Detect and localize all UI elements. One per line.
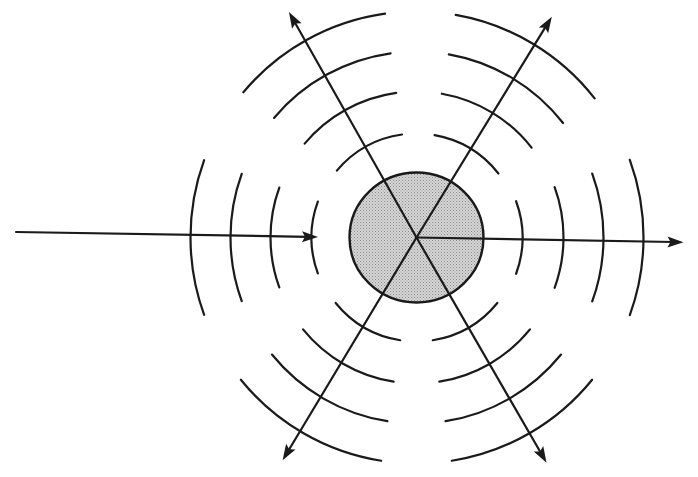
scattered-wavefront-arc [555,187,564,288]
scattered-wavefront-arc [274,53,391,118]
ray-line [417,238,542,455]
ray-line [417,25,547,237]
scattered-wavefront-group [241,303,400,461]
scattered-ray-arrow [289,12,417,237]
incident-ray-line [16,232,308,237]
incident-wavefront-arc [231,174,242,301]
arrowhead-icon [534,446,547,463]
arrowhead-icon [539,17,552,34]
scattered-wavefront-group [435,15,595,174]
scattering-diagram [0,0,698,477]
scattered-wavefront-arc [592,174,603,302]
scattered-ray-arrow [417,238,547,463]
ray-line [294,21,417,238]
scattered-wavefront-group [243,14,402,171]
scattered-wavefront-arc [516,201,522,274]
incident-ray-arrow [16,231,318,242]
scattered-wavefront-group [516,160,643,315]
ray-line [288,238,417,452]
scattered-wavefront-arc [272,355,387,422]
scattered-wavefront-group [433,303,592,461]
scattered-wavefront-arc [449,54,563,123]
arrowhead-icon [283,444,296,461]
scattered-wavefront-arc [243,14,385,93]
scattered-wavefront-arc [336,303,401,340]
scattered-ray-arrow [417,17,552,238]
scattered-ray-arrow [283,238,417,461]
scattered-wavefront-arc [305,93,397,144]
incident-wavefront-arc [190,160,204,315]
scattered-wavefront-arc [442,94,532,148]
incident-wavefront-arc [270,188,279,288]
scattered-wavefront-arc [303,329,394,381]
arrowhead-icon [289,12,302,29]
scattered-wavefront-arc [630,160,644,315]
